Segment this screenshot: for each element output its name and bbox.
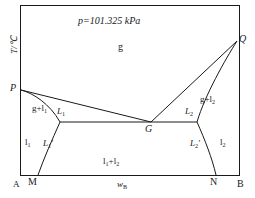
region-gas-liquid1-sub: 1 xyxy=(44,108,47,114)
region-label-two-liquids: l1+l2 xyxy=(103,157,119,167)
x-axis-label-sub: B xyxy=(123,184,127,190)
point-label-l1-prime: L1′ xyxy=(43,139,53,149)
point-l1-prime-mark: ′ xyxy=(51,138,53,148)
region-liquid1-sub: 1 xyxy=(28,142,31,148)
axis-endpoint-a: A xyxy=(13,180,20,189)
diagram-canvas xyxy=(0,0,255,198)
y-axis-label: T/℃ xyxy=(9,25,19,65)
region-gas-liquid2-sub: 2 xyxy=(212,99,215,105)
region-liquid2-sub: 2 xyxy=(223,142,226,148)
region-label-gas: g xyxy=(118,42,123,52)
point-l1-sub: 1 xyxy=(62,111,65,117)
region-gas-liquid2-base: g+l xyxy=(200,94,212,104)
region-label-gas-liquid2: g+l2 xyxy=(200,95,215,105)
two-liquid-sub-b: 2 xyxy=(116,161,119,167)
plot-frame xyxy=(21,6,240,176)
point-label-g: G xyxy=(145,124,152,134)
point-label-l1: L1 xyxy=(57,107,65,117)
region-label-liquid2: l2 xyxy=(220,138,226,148)
region-gas-liquid1-base: g+l xyxy=(32,103,44,113)
point-l2-prime-mark: ′ xyxy=(198,138,200,148)
region-label-gas-liquid1: g+l1 xyxy=(32,104,47,114)
point-label-l2: L2 xyxy=(185,107,193,117)
region-label-liquid1: l1 xyxy=(25,138,31,148)
axis-tick-n: N xyxy=(210,177,217,187)
axis-tick-m: M xyxy=(28,177,37,187)
phase-diagram-figure: T/℃ p=101.325 kPa g g+l1 g+l2 l1 l2 l1+l… xyxy=(0,0,255,198)
pressure-annotation: p=101.325 kPa xyxy=(78,16,140,26)
point-label-p: P xyxy=(10,83,16,93)
point-label-l2-prime: L2′ xyxy=(190,139,200,149)
axis-endpoint-b: B xyxy=(237,179,244,189)
point-l2-sub: 2 xyxy=(190,111,193,117)
point-label-q: Q xyxy=(239,34,246,44)
x-axis-label: wB xyxy=(117,180,127,190)
